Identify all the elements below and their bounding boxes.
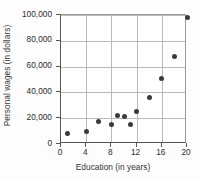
plot-area [60, 14, 186, 143]
y-tick-mark [56, 40, 60, 41]
x-axis-title: Education (in years) [0, 162, 200, 172]
data-point [159, 76, 164, 81]
y-tick-label: 20,000 [0, 112, 52, 122]
y-tick-label: 100,000 [0, 9, 52, 19]
data-point [96, 119, 101, 124]
data-point [109, 122, 114, 127]
data-point [172, 54, 177, 59]
data-point [134, 109, 139, 114]
data-point [122, 114, 127, 119]
x-axis-title-label: Education (in years) [50, 162, 150, 172]
y-tick-label: 40,000 [0, 86, 52, 96]
y-tick-mark [56, 117, 60, 118]
gridline-horizontal [61, 67, 185, 68]
gridline-horizontal [61, 41, 185, 42]
y-tick-label: 0 [0, 138, 52, 148]
y-axis-title: Personal wages (in dollars) [0, 0, 16, 150]
gridline-vertical [137, 15, 138, 142]
y-tick-label: 80,000 [0, 34, 52, 44]
y-tick-mark [56, 14, 60, 15]
y-tick-mark [56, 66, 60, 67]
y-tick-mark [56, 91, 60, 92]
data-point [65, 131, 70, 136]
x-tick-label: 20 [171, 147, 200, 157]
gridline-vertical [86, 15, 87, 142]
y-tick-label: 60,000 [0, 60, 52, 70]
data-point [185, 15, 190, 20]
data-point [84, 129, 89, 134]
data-point [147, 95, 152, 100]
scatter-chart: Personal wages (in dollars) 020,00040,00… [0, 0, 200, 180]
gridline-horizontal [61, 15, 185, 16]
gridline-horizontal [61, 92, 185, 93]
data-point [128, 122, 133, 127]
